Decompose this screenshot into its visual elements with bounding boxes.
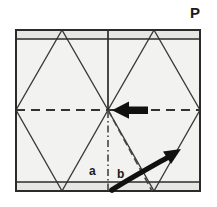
arrow-left-shaft xyxy=(127,107,148,115)
figure-canvas xyxy=(0,0,217,207)
point-label-a: a xyxy=(89,165,96,177)
point-label-b: b xyxy=(117,168,124,180)
curved-arrow-tail-cap xyxy=(109,187,114,192)
corner-label-p: P xyxy=(190,5,200,20)
origami-figure: P a b xyxy=(0,0,217,207)
